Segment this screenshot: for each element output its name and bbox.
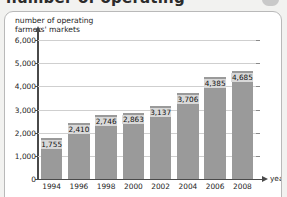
plot-area: 1,7552,4102,7462,8633,1373,7064,3854,685 <box>38 40 256 179</box>
y-axis-tick-label: 2,000 <box>15 128 36 137</box>
gridline <box>38 40 256 41</box>
y-axis-tick <box>35 63 38 64</box>
x-axis-arrow-icon <box>262 176 268 182</box>
bar: 2,410 <box>68 123 90 179</box>
y-axis-tick-label: 3,000 <box>15 105 36 114</box>
y-axis-tick-labels: 01,0002,0003,0004,0005,0006,000 <box>5 40 36 179</box>
x-axis-tick-label: 1998 <box>97 182 116 191</box>
gridline <box>38 63 256 64</box>
bar: 3,137 <box>150 106 172 179</box>
clipped-heading: number of operating <box>6 0 185 7</box>
y-axis-arrow-icon <box>35 26 41 32</box>
y-axis-tick <box>35 40 38 41</box>
x-axis-title: years <box>270 174 282 183</box>
y-axis-title: number of operating farmers' markets <box>15 16 93 35</box>
y-axis-tick-right <box>256 40 260 41</box>
y-axis-tick <box>35 86 38 87</box>
y-axis-tick-label: 4,000 <box>15 82 36 91</box>
y-axis-tick-right <box>256 86 260 87</box>
bar-value-label: 2,746 <box>95 117 117 126</box>
x-axis-tick-label: 1996 <box>69 182 88 191</box>
y-axis-tick <box>35 133 38 134</box>
y-axis-tick-right <box>256 63 260 64</box>
bar: 2,746 <box>95 115 117 179</box>
y-axis-tick-label: 5,000 <box>15 59 36 68</box>
bar: 3,706 <box>177 93 199 179</box>
chart-card: number of operating farmers' markets 01,… <box>4 11 282 197</box>
y-axis-tick-label: 1,000 <box>15 151 36 160</box>
bar-value-label: 4,685 <box>231 73 253 82</box>
x-axis-tick-label: 2004 <box>178 182 197 191</box>
bar-value-label: 1,755 <box>41 140 63 149</box>
x-axis-tick-label: 2008 <box>233 182 252 191</box>
y-axis-tick <box>35 110 38 111</box>
bar-value-label: 3,137 <box>150 108 172 117</box>
y-axis-tick-right <box>256 110 260 111</box>
bar: 4,385 <box>204 77 226 179</box>
x-axis-line <box>38 179 263 181</box>
bar: 2,863 <box>123 113 145 179</box>
x-axis-tick-label: 2002 <box>151 182 170 191</box>
y-axis-tick-right <box>256 156 260 157</box>
bar: 1,755 <box>41 138 63 179</box>
bar-value-label: 2,410 <box>68 125 90 134</box>
x-axis-tick-label: 1994 <box>42 182 61 191</box>
y-axis-tick-label: 6,000 <box>15 36 36 45</box>
y-axis-tick-right <box>256 133 260 134</box>
bar-value-label: 2,863 <box>122 115 144 124</box>
bar-value-label: 3,706 <box>177 95 199 104</box>
bar-value-label: 4,385 <box>204 79 226 88</box>
y-axis-tick <box>35 156 38 157</box>
x-axis-tick-label: 2006 <box>206 182 225 191</box>
x-axis-tick-label: 2000 <box>124 182 143 191</box>
bar: 4,685 <box>232 71 254 180</box>
